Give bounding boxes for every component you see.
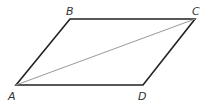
vertex-label-a: A xyxy=(7,90,16,103)
parallelogram-diagram: A B C D xyxy=(0,0,211,104)
vertex-label-b: B xyxy=(66,5,74,18)
vertex-label-d: D xyxy=(138,90,146,103)
vertex-label-c: C xyxy=(192,5,200,18)
